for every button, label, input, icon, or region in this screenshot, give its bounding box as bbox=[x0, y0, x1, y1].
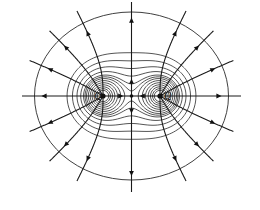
charge-label: Q bbox=[164, 91, 172, 101]
arrow-icon bbox=[129, 171, 134, 176]
charge-label: Q bbox=[94, 91, 102, 101]
arrow-icon bbox=[129, 108, 134, 113]
arrow-icon bbox=[129, 18, 134, 23]
arrow-icon bbox=[129, 79, 134, 84]
field-lines bbox=[22, 2, 241, 192]
point-charge bbox=[157, 93, 162, 98]
saddle-point bbox=[130, 94, 134, 98]
arrow-icon bbox=[216, 94, 221, 99]
arrow-icon bbox=[41, 94, 46, 99]
field-diagram: QQ bbox=[0, 0, 260, 210]
